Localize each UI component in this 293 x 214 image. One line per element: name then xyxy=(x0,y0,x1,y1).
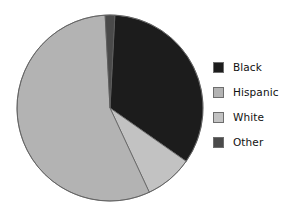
legend-swatch-hispanic xyxy=(213,87,224,98)
legend-item-other[interactable]: Other xyxy=(213,130,293,155)
legend-swatch-other xyxy=(213,137,224,148)
pie-slice-group xyxy=(17,15,203,201)
legend-swatch-white xyxy=(213,112,224,123)
pie-chart-figure: Black Hispanic White Other xyxy=(0,0,293,214)
legend-item-hispanic[interactable]: Hispanic xyxy=(213,80,293,105)
pie-chart-svg xyxy=(0,0,210,214)
pie-chart-plot-area xyxy=(0,0,210,214)
chart-legend: Black Hispanic White Other xyxy=(213,55,293,155)
legend-label-hispanic: Hispanic xyxy=(233,87,279,98)
legend-label-other: Other xyxy=(233,137,263,148)
legend-label-white: White xyxy=(233,112,264,123)
legend-item-black[interactable]: Black xyxy=(213,55,293,80)
legend-item-white[interactable]: White xyxy=(213,105,293,130)
legend-swatch-black xyxy=(213,62,224,73)
legend-label-black: Black xyxy=(233,62,262,73)
